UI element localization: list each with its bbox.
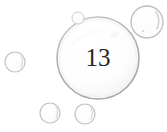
main-bubble-number: 13: [85, 45, 111, 70]
bubble-bottom-left: [40, 103, 60, 123]
bubbles-illustration: 13: [0, 0, 167, 132]
bubble-top-right-dot: [142, 30, 144, 32]
bubbles-canvas: [0, 0, 167, 132]
bubble-top-tiny: [72, 12, 84, 24]
bubble-top-tiny-outline: [72, 12, 84, 24]
bubble-top-right: [131, 6, 163, 38]
bubble-left: [5, 52, 25, 72]
bubble-bottom-right: [75, 104, 95, 124]
